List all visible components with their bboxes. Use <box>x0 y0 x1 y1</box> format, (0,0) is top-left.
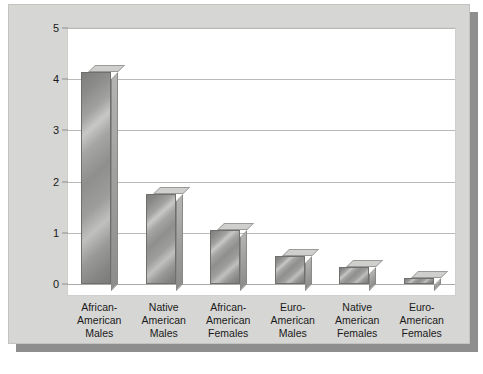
x-axis-label: African-AmericanMales <box>67 301 132 340</box>
y-tick-label-3: 3 <box>34 124 68 136</box>
bar-top-face <box>282 249 319 256</box>
y-tick-label-5: 5 <box>34 22 68 34</box>
x-axis-labels: African-AmericanMalesNativeAmericanMales… <box>67 301 456 345</box>
bar <box>275 249 312 284</box>
bar-side-face <box>240 230 247 291</box>
y-tick-label-1: 1 <box>34 227 68 239</box>
bar-side-face <box>176 194 183 291</box>
gridline-1 <box>68 233 455 234</box>
bar-front-face <box>404 278 434 284</box>
bar-front-face <box>146 194 176 284</box>
bar-side-face <box>369 267 376 291</box>
y-tick-label-4: 4 <box>34 73 68 85</box>
bar-top-face <box>346 260 383 267</box>
y-tick-label-2: 2 <box>34 176 68 188</box>
bar-front-face <box>81 72 111 284</box>
chart-panel: 012345 Number of Homicides Per 100 Perso… <box>8 4 470 344</box>
bar-front-face <box>339 267 369 284</box>
bar <box>81 65 118 284</box>
gridline-3 <box>68 130 455 131</box>
gridline-5 <box>68 28 455 29</box>
gridline-4 <box>68 79 455 80</box>
bar-top-face <box>411 271 448 278</box>
y-tick-label-0: 0 <box>34 278 68 290</box>
x-axis-label: NativeAmericanFemales <box>325 301 390 340</box>
x-axis-label: African-AmericanFemales <box>196 301 261 340</box>
gridline-0 <box>68 284 455 285</box>
bar-side-face <box>111 72 118 292</box>
x-axis-label: NativeAmericanMales <box>132 301 197 340</box>
bar-front-face <box>210 230 240 284</box>
bar-front-face <box>275 256 305 284</box>
bar <box>146 187 183 284</box>
figure-root: 012345 Number of Homicides Per 100 Perso… <box>0 0 483 374</box>
x-axis-label: Euro-AmericanFemales <box>390 301 455 340</box>
bar-side-face <box>434 278 441 291</box>
bar-top-face <box>153 187 190 194</box>
plot-area: 012345 <box>67 27 456 296</box>
bar <box>210 223 247 284</box>
bar-side-face <box>305 256 312 291</box>
gridline-2 <box>68 182 455 183</box>
bar-top-face <box>88 65 125 72</box>
x-axis-label: Euro-AmericanMales <box>261 301 326 340</box>
bar-top-face <box>217 223 254 230</box>
bar <box>339 260 376 284</box>
bar <box>404 271 441 284</box>
